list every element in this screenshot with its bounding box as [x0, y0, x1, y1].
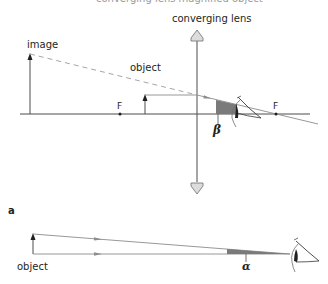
- focal-right-label: F: [273, 102, 278, 111]
- angle-alpha-label: α: [242, 261, 250, 272]
- panel-label-a: a: [8, 206, 15, 216]
- angle-beta-label: β: [213, 124, 221, 136]
- ray-direction-arrow-icon: [203, 95, 211, 98]
- lower-ray-bottom-arrow-icon: [94, 252, 102, 255]
- virtual-ray-dashed: [30, 54, 197, 95]
- lower-object-label: object: [17, 262, 48, 272]
- object-label: object: [130, 63, 161, 73]
- image-label: image: [27, 40, 58, 50]
- lower-diagram: [31, 233, 320, 272]
- focal-point-left: [119, 113, 122, 116]
- focal-left-label: F: [117, 102, 122, 111]
- lower-eye-icon: [292, 238, 319, 272]
- eye-icon: [232, 96, 261, 127]
- focal-point-right: [275, 113, 278, 116]
- lens-top-arrowhead-icon: [191, 30, 203, 41]
- lens-bottom-arrowhead-icon: [191, 183, 203, 194]
- upper-diagram: [20, 30, 318, 194]
- refracted-ray: [197, 95, 318, 124]
- lower-ray-top: [33, 234, 290, 254]
- lens-label: converging lens: [172, 14, 251, 24]
